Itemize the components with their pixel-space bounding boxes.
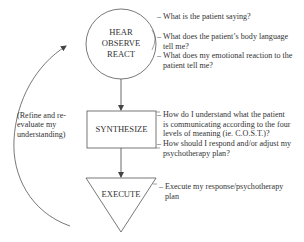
observe-label-line: OBSERVE — [86, 38, 156, 49]
bullet-dash: – — [157, 139, 161, 149]
bullet-text: What does the patient’s body language — [157, 32, 288, 42]
observe-label-line: REACT — [86, 49, 156, 60]
bullet-dash: – — [159, 182, 163, 192]
bullet-text: psychotherapy plan? — [157, 149, 291, 159]
bullet-text: Execute my response/psychotherapy — [159, 182, 283, 192]
observe-node-label: HEAR OBSERVE REACT — [86, 27, 156, 60]
feedback-line: (Refine and re- — [17, 111, 66, 120]
observe-bullet: – What does my emotional reaction to the… — [157, 51, 292, 70]
execute-bullet: – Execute my response/psychotherapy plan — [159, 182, 283, 201]
synthesize-bullet: – How should I respond and/or adjust my … — [157, 139, 291, 158]
feedback-line: evaluate my — [17, 120, 66, 129]
feedback-line: understanding) — [17, 130, 66, 139]
bullet-dash: – — [157, 12, 161, 22]
execute-node-label: EXECUTE — [86, 189, 156, 200]
bullet-text: levels of meaning (ie. C.O.S.T.)? — [157, 129, 290, 139]
bullet-text: tell me? — [157, 42, 288, 52]
execute-node-triangle — [86, 178, 156, 232]
bullet-text: plan — [159, 192, 283, 202]
bullet-dash: – — [157, 51, 161, 61]
bullet-text: How do I understand what the patient — [157, 110, 290, 120]
bullet-dash: – — [157, 110, 161, 120]
feedback-loop-label: (Refine and re- evaluate my understandin… — [17, 111, 66, 139]
observe-label-line: HEAR — [86, 27, 156, 38]
bullet-text: What is the patient saying? — [157, 12, 251, 22]
bullet-dash: – — [157, 32, 161, 42]
bullet-text: patient tell me? — [157, 61, 292, 71]
bullet-text: What does my emotional reaction to the — [157, 51, 292, 61]
synthesize-bullet: – How do I understand what the patient i… — [157, 110, 290, 139]
synthesize-node-label: SYNTHESIZE — [87, 124, 156, 135]
observe-bullet: – What does the patient’s body language … — [157, 32, 288, 51]
bullet-text: is communicating according to the four — [157, 120, 290, 130]
bullet-text: How should I respond and/or adjust my — [157, 139, 291, 149]
observe-bullet: – What is the patient saying? — [157, 12, 251, 22]
